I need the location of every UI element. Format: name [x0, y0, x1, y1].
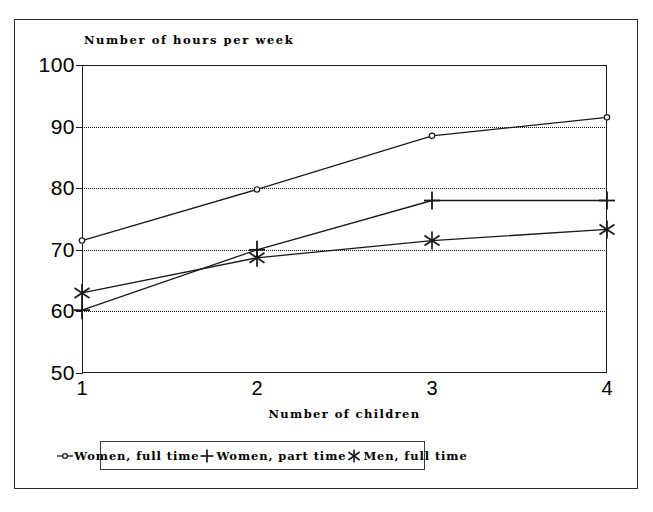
asterisk-marker-icon: [346, 449, 362, 463]
plus-marker-icon: [199, 449, 215, 463]
x-tick-label: 3: [426, 377, 437, 400]
circle-marker-icon: [254, 187, 259, 192]
y-tick-label: 50: [51, 361, 75, 385]
x-tick-label: 4: [601, 377, 612, 400]
x-axis-title: Number of children: [268, 407, 420, 421]
y-tick-mark: [76, 373, 83, 374]
legend-item-women-full-time: Women, full time: [57, 449, 199, 463]
circle-marker-icon: [57, 449, 73, 463]
x-tick-label: 2: [251, 377, 262, 400]
circle-marker-icon: [604, 115, 609, 120]
plus-marker-icon: [424, 192, 440, 210]
legend-label-women-part-time: Women, part time: [216, 449, 346, 463]
chart-title: Number of hours per week: [84, 33, 294, 47]
legend-label-men-full-time: Men, full time: [363, 449, 467, 463]
legend-label-women-full-time: Women, full time: [74, 449, 199, 463]
chart-legend: Women, full time Women, part time Men, f…: [100, 441, 425, 470]
figure-page: Number of hours per week 100908070605012…: [0, 0, 653, 512]
y-tick-label: 60: [51, 299, 75, 323]
series-layer: [82, 65, 607, 373]
x-tick-label: 1: [76, 377, 87, 400]
plot-area: 10090807060501234 Number of children: [82, 65, 607, 373]
legend-item-women-part-time: Women, part time: [199, 449, 346, 463]
y-tick-label: 100: [38, 53, 75, 77]
circle-marker-icon: [79, 238, 84, 243]
legend-item-men-full-time: Men, full time: [346, 449, 467, 463]
circle-marker-icon: [429, 133, 434, 138]
y-tick-label: 70: [51, 238, 75, 262]
series-line: [82, 117, 607, 240]
y-tick-label: 80: [51, 176, 75, 200]
y-tick-label: 90: [51, 115, 75, 139]
